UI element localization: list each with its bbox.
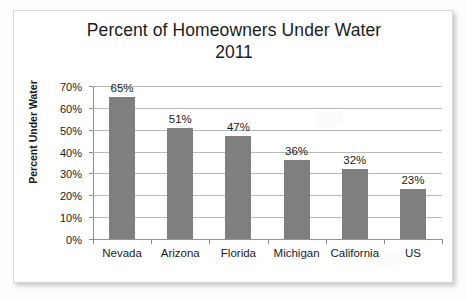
y-axis-tick: 20%: [89, 195, 93, 196]
bar-value-label: 23%: [401, 174, 424, 186]
y-axis-tick: 50%: [89, 130, 93, 131]
bar-california[interactable]: [342, 169, 368, 239]
gridline: [93, 86, 442, 87]
chart-subtitle-year: 2011: [14, 42, 454, 63]
y-axis-tick-label: 30%: [60, 168, 82, 180]
y-axis-tick: 30%: [89, 173, 93, 174]
y-axis-tick: 10%: [89, 217, 93, 218]
y-axis-tick-label: 50%: [60, 125, 82, 137]
bar-florida[interactable]: [225, 136, 251, 239]
plot-area: 0%10%20%30%40%50%60%70% 65%51%47%36%32%2…: [93, 86, 442, 239]
y-axis-tick: 70%: [89, 86, 93, 87]
y-axis-tick-label: 60%: [60, 103, 82, 115]
bar-value-label: 32%: [343, 154, 366, 166]
y-axis-title: Percent Under Water: [27, 77, 39, 187]
gridline: [93, 108, 442, 109]
bar-value-label: 47%: [227, 121, 250, 133]
y-axis-tick-label: 20%: [60, 190, 82, 202]
y-axis-tick: 60%: [89, 108, 93, 109]
category-label-michigan: Michigan: [274, 247, 320, 259]
y-axis-tick-label: 10%: [60, 212, 82, 224]
y-axis-line: [93, 86, 94, 239]
gridline: [93, 217, 442, 218]
bar-arizona[interactable]: [167, 128, 193, 239]
gridline: [93, 173, 442, 174]
gridline: [93, 152, 442, 153]
bar-value-label: 51%: [169, 113, 192, 125]
y-axis-tick-label: 0%: [66, 234, 82, 246]
bar-value-label: 36%: [285, 145, 308, 157]
x-axis-tick: [326, 239, 327, 244]
x-axis-tick: [442, 239, 443, 244]
chart-title: Percent of Homeowners Under Water: [14, 20, 454, 41]
x-axis-tick: [151, 239, 152, 244]
y-axis-tick-label: 40%: [60, 147, 82, 159]
y-axis-tick: 40%: [89, 152, 93, 153]
gridline: [93, 195, 442, 196]
x-axis-tick: [268, 239, 269, 244]
x-axis-tick: [384, 239, 385, 244]
bar-michigan[interactable]: [284, 160, 310, 239]
category-label-california: California: [330, 247, 379, 259]
bar-us[interactable]: [400, 189, 426, 239]
x-axis-tick: [209, 239, 210, 244]
x-axis-tick: [93, 239, 94, 244]
category-label-arizona: Arizona: [161, 247, 200, 259]
scanned-page: Percent of Homeowners Under Water 2011 P…: [0, 0, 467, 300]
y-axis-tick-label: 70%: [60, 81, 82, 93]
category-label-nevada: Nevada: [102, 247, 142, 259]
chart-card: Percent of Homeowners Under Water 2011 P…: [13, 10, 453, 283]
gridline: [93, 130, 442, 131]
category-label-florida: Florida: [221, 247, 256, 259]
category-label-us: US: [405, 247, 421, 259]
bar-nevada[interactable]: [109, 97, 135, 239]
bar-value-label: 65%: [111, 82, 134, 94]
